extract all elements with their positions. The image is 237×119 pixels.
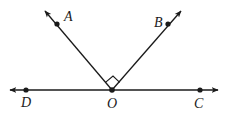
label-b: B [154,15,163,30]
ray-ob [112,11,181,90]
geometry-diagram: A B D O C [0,0,237,119]
label-o: O [107,96,117,111]
point-a [54,21,59,26]
point-d [23,87,28,92]
label-c: C [194,96,204,111]
point-b [165,21,170,26]
point-o [109,87,115,93]
point-c [197,87,202,92]
label-d: D [20,95,31,110]
label-a: A [63,9,73,24]
right-angle-marker [106,76,120,82]
